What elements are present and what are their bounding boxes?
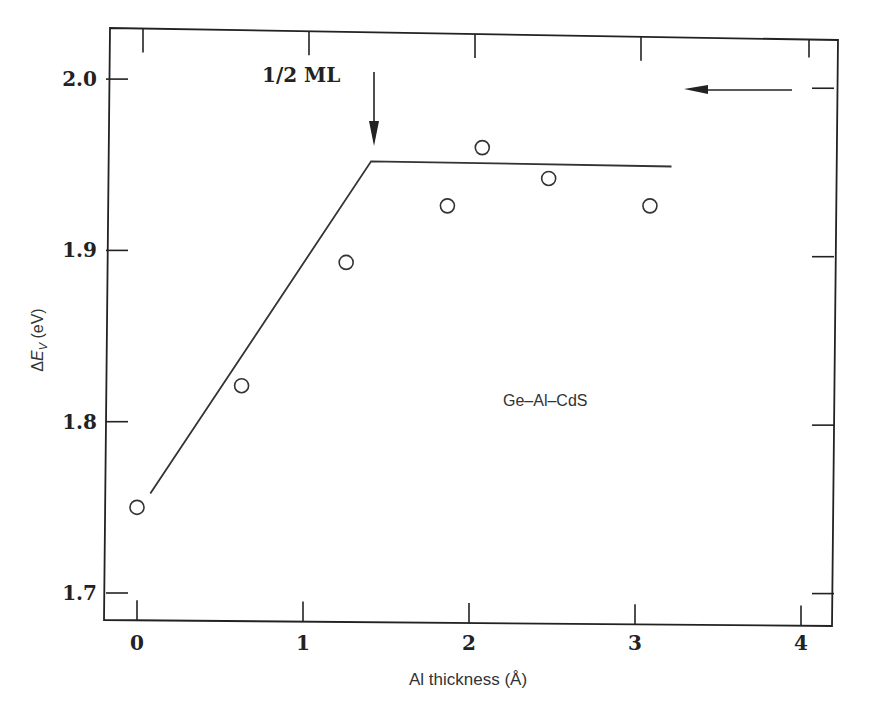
data-point <box>440 199 454 213</box>
y-axis-label: ΔEV (eV) <box>29 308 49 371</box>
data-point <box>235 379 249 393</box>
x-tick-label: 1 <box>296 631 310 655</box>
half-ml-label: 1/2 ML <box>262 63 340 87</box>
x-axis-bottom: 01234 <box>130 600 808 655</box>
y-tick-label: 1.7 <box>62 581 97 605</box>
left-arrow-annotation <box>684 85 792 94</box>
fit-line <box>150 161 671 493</box>
x-tick-label: 3 <box>628 631 642 655</box>
x-tick-label: 4 <box>794 631 808 655</box>
plot-frame <box>104 28 838 626</box>
x-axis-label: Al thickness (Å) <box>409 670 527 689</box>
data-point <box>643 199 657 213</box>
chart: 1.71.81.92.0 01234 1/2 ML Ge–Al–CdS Al t… <box>0 0 869 706</box>
data-points <box>130 141 657 515</box>
sample-label: Ge–Al–CdS <box>503 392 588 409</box>
y-axis-right <box>812 88 834 593</box>
left-arrow-icon <box>684 85 708 94</box>
data-point <box>339 255 353 269</box>
svg-text:ΔEV (eV): ΔEV (eV) <box>29 308 49 371</box>
down-arrow-icon <box>369 121 379 146</box>
data-point <box>130 500 144 514</box>
axes-box <box>104 28 838 626</box>
y-label-unit: (eV) <box>29 308 46 343</box>
y-tick-label: 1.8 <box>62 410 97 434</box>
half-ml-annotation: 1/2 ML <box>262 63 379 146</box>
y-label-delta: Δ <box>29 361 46 372</box>
x-tick-label: 0 <box>130 631 144 655</box>
y-tick-label: 2.0 <box>62 67 97 91</box>
data-point <box>542 171 556 185</box>
y-label-E: E <box>29 350 46 361</box>
y-tick-label: 1.9 <box>62 238 97 262</box>
x-tick-label: 2 <box>462 631 476 655</box>
data-point <box>475 141 489 155</box>
y-axis-left: 1.71.81.92.0 <box>62 67 128 605</box>
